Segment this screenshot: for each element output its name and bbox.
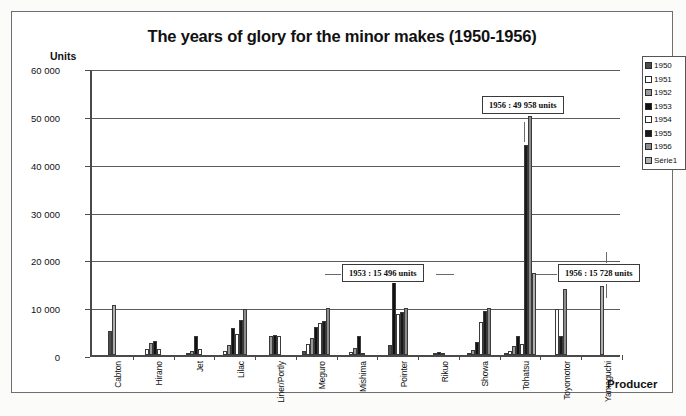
bar xyxy=(277,336,281,355)
legend-label: 1950 xyxy=(654,61,672,70)
legend-swatch-icon xyxy=(645,76,652,83)
x-axis-category-label: Pointer xyxy=(399,361,409,387)
x-axis-category-label: Hirano xyxy=(154,361,164,385)
legend-swatch-icon xyxy=(645,157,652,164)
legend-swatch-icon xyxy=(645,130,652,137)
bar xyxy=(112,305,116,355)
legend-item[interactable]: 1956 xyxy=(645,140,683,154)
y-axis-title: Units xyxy=(50,50,76,62)
bar-group xyxy=(418,70,459,355)
legend-item[interactable]: Série1 xyxy=(645,154,683,168)
y-axis-tick-label: 40 000 xyxy=(0,160,60,171)
callout-leader-pointer-left xyxy=(325,274,343,275)
x-axis-category-label: Yamaguchi xyxy=(603,361,613,402)
chart-title: The years of glory for the minor makes (… xyxy=(12,27,672,46)
legend-label: 1955 xyxy=(654,129,672,138)
bar-group xyxy=(174,70,215,355)
x-axis-category-label: Liner/Portly xyxy=(276,361,286,403)
callout-leader-tohatsu xyxy=(524,122,525,142)
legend-label: 1951 xyxy=(654,75,672,84)
legend-item[interactable]: 1951 xyxy=(645,73,683,87)
callout-leader-toyomotor-down xyxy=(606,252,607,264)
legend-label: 1952 xyxy=(654,88,672,97)
legend-swatch-icon xyxy=(645,116,652,123)
x-axis-tick-mark xyxy=(581,355,582,360)
y-axis-tick-mark xyxy=(85,357,90,358)
x-axis-category-label: Tohatsu xyxy=(521,361,531,390)
y-axis-tick-label: 60 000 xyxy=(0,65,60,76)
bar-group xyxy=(296,70,337,355)
callout-leader-toyomotor-left xyxy=(536,274,558,275)
bar xyxy=(441,353,445,355)
y-axis-tick-label: 30 000 xyxy=(0,208,60,219)
x-axis-tick-mark xyxy=(540,355,541,360)
callout-leader-pointer-right xyxy=(436,274,454,275)
bar xyxy=(563,289,567,355)
x-axis-tick-mark xyxy=(296,355,297,360)
x-axis-tick-mark xyxy=(500,355,501,360)
x-axis-category-label: Rikuo xyxy=(440,361,450,382)
chart-legend: 1950195119521953195419551956Série1 xyxy=(642,56,686,170)
legend-swatch-icon xyxy=(645,103,652,110)
annotation-pointer: 1953 : 15 496 units xyxy=(342,264,424,282)
annotation-tohatsu: 1956 : 49 958 units xyxy=(482,96,564,114)
bar xyxy=(487,308,491,355)
x-axis-category-label: Cabton xyxy=(113,361,123,388)
x-axis-category-label: Mishima xyxy=(358,361,368,392)
x-axis-tick-mark xyxy=(174,355,175,360)
legend-swatch-icon xyxy=(645,89,652,96)
bar-group xyxy=(377,70,418,355)
bar-group xyxy=(214,70,255,355)
legend-item[interactable]: 1955 xyxy=(645,127,683,141)
chart-page: The years of glory for the minor makes (… xyxy=(0,0,686,416)
bar xyxy=(600,286,604,355)
x-axis-tick-mark xyxy=(418,355,419,360)
bar-group xyxy=(581,70,622,355)
legend-label: 1953 xyxy=(654,102,672,111)
callout-leader-toyomotor-tail xyxy=(606,284,607,298)
y-axis-tick-label: 50 000 xyxy=(0,112,60,123)
x-axis-tick-mark xyxy=(255,355,256,360)
x-axis-tick-mark xyxy=(622,355,623,360)
bar-group xyxy=(337,70,378,355)
bar xyxy=(243,309,247,355)
x-axis-tick-mark xyxy=(337,355,338,360)
x-axis-tick-mark xyxy=(133,355,134,360)
x-axis-title: Producer xyxy=(607,378,658,390)
x-axis-tick-mark xyxy=(377,355,378,360)
y-axis-tick-label: 20 000 xyxy=(0,256,60,267)
legend-label: 1956 xyxy=(654,142,672,151)
legend-item[interactable]: 1950 xyxy=(645,59,683,73)
legend-label: Série1 xyxy=(654,156,677,165)
x-axis-category-label: Jet xyxy=(195,361,205,372)
legend-label: 1954 xyxy=(654,115,672,124)
x-axis-category-label: Meguro xyxy=(317,361,327,389)
annotation-toyomotor: 1956 : 15 728 units xyxy=(558,264,640,282)
bar xyxy=(404,308,408,355)
y-axis-tick-label: 10 000 xyxy=(0,304,60,315)
x-axis-category-label: Toyomotor xyxy=(562,361,572,400)
bar xyxy=(157,349,161,355)
y-axis-tick-label: 0 xyxy=(0,352,60,363)
bar xyxy=(361,353,365,355)
legend-swatch-icon xyxy=(645,143,652,150)
legend-swatch-icon xyxy=(645,62,652,69)
x-axis-category-label: Lilac xyxy=(236,361,246,378)
legend-item[interactable]: 1952 xyxy=(645,86,683,100)
chart-frame: The years of glory for the minor makes (… xyxy=(11,11,673,393)
legend-item[interactable]: 1954 xyxy=(645,113,683,127)
bar xyxy=(326,308,330,355)
bar xyxy=(198,349,202,355)
bar-group xyxy=(255,70,296,355)
legend-item[interactable]: 1953 xyxy=(645,100,683,114)
bar-group xyxy=(92,70,133,355)
x-axis-tick-mark xyxy=(214,355,215,360)
bar xyxy=(532,273,536,355)
bar-group xyxy=(133,70,174,355)
x-axis-tick-mark xyxy=(459,355,460,360)
x-axis-category-label: Showa xyxy=(480,361,490,387)
